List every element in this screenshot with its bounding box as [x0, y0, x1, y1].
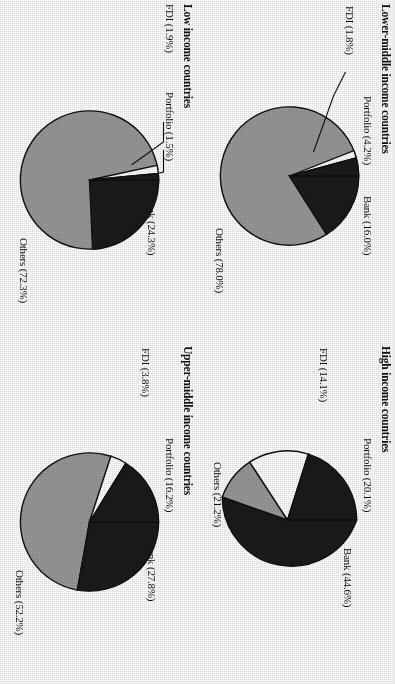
- panel-low-income: Low income countries Portfolio (1.5%) FD…: [0, 0, 197, 342]
- panel-high-income: High income countries Portfolio (20.1%) …: [198, 342, 395, 684]
- pie-svg-high-income: [207, 440, 367, 600]
- figure-stage: Low income countries Portfolio (1.5%) FD…: [0, 0, 395, 684]
- leader-portfolio-low-income: [147, 150, 163, 176]
- pie-slice-bank-upper-middle-income: [77, 522, 158, 591]
- slice-label-fdi-high-income: FDI (14.1%): [317, 348, 329, 402]
- slice-label-fdi-upper-middle-income: FDI (3.8%): [139, 348, 151, 397]
- pie-chart-upper-middle-income: [9, 442, 169, 602]
- leader-fdi-lower-middle-income: [313, 72, 345, 152]
- panel-upper-middle-income: Upper-middle income countries Portfolio …: [0, 342, 197, 684]
- panel-title-high-income: High income countries: [379, 346, 391, 452]
- panel-lower-middle-income: Lower-middle income countries Portfolio …: [198, 0, 395, 342]
- pie-chart-high-income: [207, 440, 367, 600]
- leader-fdi-low-income: [131, 122, 163, 165]
- pie-svg-upper-middle-income: [9, 442, 169, 602]
- panel-title-upper-middle-income: Upper-middle income countries: [181, 346, 193, 495]
- leader-lines-low-income: [0, 0, 197, 342]
- leader-lines-lower-middle-income: [198, 0, 395, 342]
